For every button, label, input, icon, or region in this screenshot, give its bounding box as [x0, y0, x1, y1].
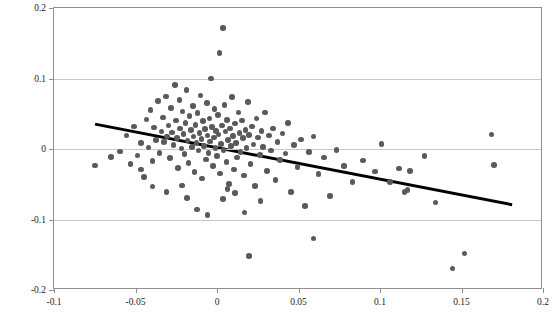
scatter-point [155, 98, 161, 104]
scatter-point [217, 50, 223, 56]
scatter-point [260, 144, 266, 150]
scatter-point [153, 137, 159, 143]
scatter-point [160, 115, 166, 121]
scatter-chart-figure: Decadal Change in Log Weekly Wage -0.2-0… [0, 0, 556, 321]
scatter-point [219, 123, 225, 129]
scatter-point [233, 140, 239, 146]
scatter-point [163, 94, 169, 100]
scatter-point [201, 143, 207, 149]
scatter-point [225, 186, 231, 192]
scatter-point [199, 176, 205, 182]
scatter-point [180, 109, 186, 115]
scatter-point [230, 133, 236, 139]
scatter-point [151, 125, 157, 131]
scatter-point [183, 120, 189, 126]
scatter-point [169, 130, 175, 136]
scatter-point [166, 123, 172, 129]
scatter-point [238, 149, 244, 155]
scatter-point [316, 171, 322, 177]
scatter-point [182, 151, 188, 157]
scatter-point [288, 189, 294, 195]
scatter-point [295, 164, 301, 170]
scatter-point [298, 137, 304, 143]
scatter-point [128, 161, 134, 167]
x-axis-tick-label: -0.05 [126, 297, 146, 307]
scatter-point [334, 147, 340, 153]
x-axis-tick-label: -0.1 [46, 297, 61, 307]
scatter-point [117, 149, 123, 155]
y-axis-tick-label: -0.2 [31, 285, 46, 295]
scatter-point [236, 110, 242, 116]
scatter-point [224, 117, 230, 123]
scatter-point [138, 140, 144, 146]
scatter-point [246, 253, 252, 259]
scatter-point [255, 135, 261, 141]
scatter-point [205, 212, 211, 218]
x-axis-tick-label: 0.15 [453, 297, 470, 307]
scatter-point [246, 132, 252, 138]
scatter-point [138, 167, 144, 173]
scatter-point [379, 141, 385, 147]
scatter-point [241, 173, 247, 179]
scatter-point [232, 121, 238, 127]
scatter-point [215, 112, 221, 118]
scatter-point [214, 153, 220, 159]
scatter-point [229, 94, 235, 100]
plot-area: -0.2-0.100.10.2-0.1-0.0500.050.10.150.2 [53, 7, 542, 289]
scatter-point [174, 135, 180, 141]
scatter-point [462, 251, 468, 257]
scatter-point [291, 142, 297, 148]
scatter-point [187, 113, 193, 119]
scatter-point [405, 187, 411, 193]
scatter-point [190, 103, 196, 109]
scatter-point [266, 133, 272, 139]
scatter-point [202, 126, 208, 132]
scatter-point [184, 195, 190, 201]
scatter-point [254, 116, 260, 122]
scatter-point [270, 126, 276, 132]
scatter-point [200, 118, 206, 124]
scatter-point [239, 118, 245, 124]
y-axis-tick-label: 0.2 [34, 3, 46, 13]
scatter-point [222, 102, 228, 108]
x-axis-tick [462, 288, 463, 293]
scatter-point [327, 193, 333, 199]
y-axis-tick-label: 0.1 [34, 74, 46, 84]
x-axis-tick [136, 288, 137, 293]
scatter-point [285, 120, 291, 126]
x-axis-tick-label: 0 [215, 297, 220, 307]
scatter-point [249, 124, 255, 130]
scatter-point [216, 132, 222, 138]
scatter-point [258, 198, 264, 204]
scatter-point [157, 150, 163, 156]
scatter-point [311, 236, 317, 242]
scatter-point [177, 97, 183, 103]
scatter-point [252, 183, 258, 189]
scatter-point [179, 183, 185, 189]
scatter-point [248, 161, 254, 167]
scatter-point [185, 138, 191, 144]
scatter-point [341, 163, 347, 169]
scatter-point [232, 190, 238, 196]
scatter-point [195, 110, 201, 116]
scatter-point [372, 169, 378, 175]
scatter-point [268, 148, 274, 154]
scatter-point [171, 142, 177, 148]
scatter-point [124, 133, 130, 139]
scatter-point [92, 163, 98, 169]
scatter-point [208, 76, 214, 82]
scatter-point [188, 127, 194, 133]
y-axis-tick [49, 220, 54, 221]
scatter-point [108, 154, 114, 160]
scatter-point [240, 135, 246, 141]
scatter-point [277, 157, 283, 163]
y-axis-tick-label: 0 [41, 144, 46, 154]
scatter-point [168, 105, 174, 111]
scatter-point [193, 122, 199, 128]
scatter-point [173, 118, 179, 124]
scatter-point [131, 124, 137, 130]
scatter-point [150, 158, 156, 164]
scatter-point [360, 158, 366, 164]
y-axis-tick [49, 79, 54, 80]
scatter-point [194, 207, 200, 213]
